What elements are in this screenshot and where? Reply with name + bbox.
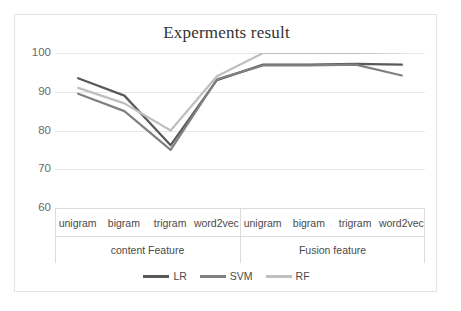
plot-area: [55, 53, 425, 208]
category-label: bigram: [101, 209, 147, 236]
category-axis-table: unigrambigramtrigramword2vecunigrambigra…: [55, 208, 425, 262]
category-table-separator: [240, 209, 241, 263]
legend-swatch-icon: [200, 275, 226, 278]
category-label: trigram: [333, 209, 379, 236]
series-lines: [55, 53, 425, 208]
legend-item-svm[interactable]: SVM: [200, 270, 253, 282]
legend-label: RF: [296, 270, 310, 282]
category-table-separator: [424, 209, 425, 263]
y-axis-tick-labels: 60708090100: [15, 53, 51, 208]
y-axis-tick-label: 70: [17, 162, 51, 174]
chart-container: Experments result 60708090100 unigrambig…: [14, 14, 437, 292]
category-label: word2vec: [379, 209, 425, 236]
series-line-svm: [78, 65, 402, 150]
y-axis-tick-label: 90: [17, 85, 51, 97]
category-label: trigram: [148, 209, 194, 236]
legend-swatch-icon: [266, 275, 292, 278]
y-axis-tick-label: 80: [17, 124, 51, 136]
category-label: word2vec: [194, 209, 240, 236]
category-group-label: Fusion feature: [240, 237, 425, 263]
category-label: bigram: [286, 209, 332, 236]
legend-label: LR: [173, 270, 186, 282]
legend-item-rf[interactable]: RF: [266, 270, 310, 282]
chart-legend: LRSVMRF: [15, 267, 438, 285]
legend-item-lr[interactable]: LR: [143, 270, 186, 282]
category-table-separator: [55, 209, 56, 263]
category-label: unigram: [55, 209, 101, 236]
category-label: unigram: [240, 209, 286, 236]
y-axis-tick-label: 100: [17, 46, 51, 58]
chart-title: Experments result: [15, 23, 438, 43]
legend-swatch-icon: [143, 275, 169, 278]
legend-label: SVM: [230, 270, 253, 282]
y-axis-tick-label: 60: [17, 201, 51, 213]
category-group-label: content Feature: [55, 237, 240, 263]
